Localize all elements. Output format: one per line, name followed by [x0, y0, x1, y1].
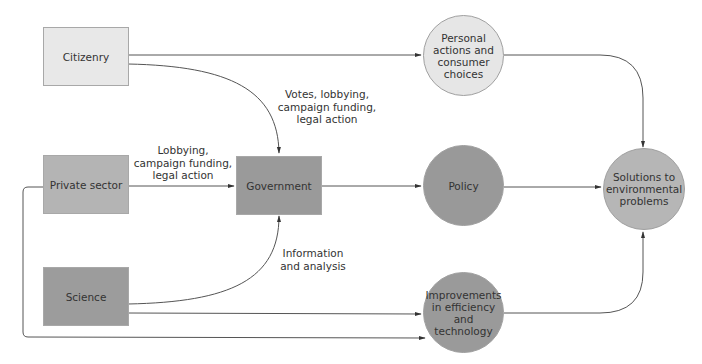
node-private-sector: Private sector [43, 155, 129, 214]
node-government: Government [236, 156, 322, 215]
node-label: Science [66, 291, 107, 303]
node-policy: Policy [423, 145, 504, 226]
node-label: Solutions to environmental problems [606, 171, 682, 207]
node-label: Improvements in efficiency and technolog… [425, 289, 501, 337]
edge-label-science-government: Information and analysis [278, 247, 348, 272]
node-label: Private sector [50, 179, 123, 191]
edge-citizenry-government [128, 64, 279, 153]
node-personal-actions: Personal actions and consumer choices [423, 15, 504, 96]
edge-science-government [128, 216, 279, 304]
node-label: Citizenry [63, 51, 109, 63]
node-solutions: Solutions to environmental problems [603, 148, 685, 230]
edge-personal-solutions [504, 55, 643, 147]
edge-improvements-solutions [504, 232, 643, 313]
node-science: Science [43, 267, 129, 326]
edge-label-private-government: Lobbying, campaign funding, legal action [128, 144, 238, 182]
node-citizenry: Citizenry [43, 27, 129, 86]
node-label: Personal actions and consumer choices [432, 32, 495, 80]
edge-label-citizenry-government: Votes, lobbying, campaign funding, legal… [272, 88, 382, 126]
node-label: Government [246, 180, 311, 192]
node-improvements: Improvements in efficiency and technolog… [423, 272, 504, 353]
node-label: Policy [448, 180, 478, 192]
edge-science-improvements [128, 313, 421, 314]
